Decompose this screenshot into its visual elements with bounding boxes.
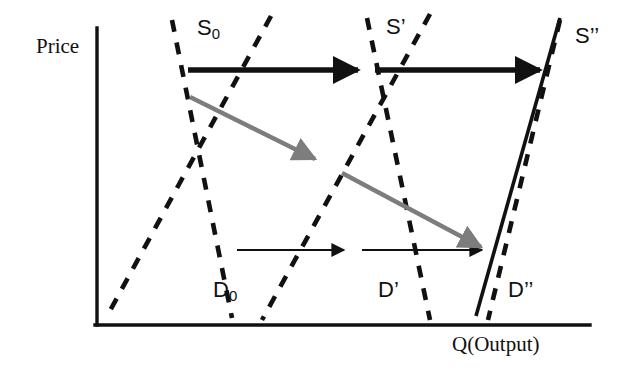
curve-label-d0-subscript: 0 <box>229 287 237 304</box>
equilibrium-path-arrow-2 <box>342 173 481 247</box>
demand-curve-d0 <box>106 16 271 318</box>
x-axis-label: Q(Output) <box>452 334 540 355</box>
supply-curve-s0 <box>172 20 232 318</box>
supply-curves <box>172 18 430 320</box>
curve-label-d0: D0 <box>213 279 237 304</box>
curve-label-d-double-prime: D’’ <box>508 279 533 301</box>
curve-label-s0: S0 <box>197 17 220 42</box>
demand-curve-d-prime <box>262 14 430 320</box>
supply-curve-s-double-prime <box>476 18 560 316</box>
equilibrium-path-arrows <box>190 97 481 247</box>
curve-label-s-double-prime: S’’ <box>575 25 599 47</box>
equilibrium-path-arrow-1 <box>190 97 315 159</box>
curve-label-s-prime: S’ <box>386 16 406 38</box>
demand-curve-d-double-prime <box>488 20 560 320</box>
diagram-canvas <box>0 0 634 372</box>
y-axis-label: Price <box>36 36 79 57</box>
curve-label-s0-subscript: 0 <box>212 25 220 42</box>
demand-curves <box>106 14 560 320</box>
supply-demand-diagram: Price Q(Output) S0 S’ S’’ D0 D’ D’’ <box>0 0 634 372</box>
curve-label-d-prime: D’ <box>378 279 399 301</box>
curve-label-s0-base: S <box>197 15 212 40</box>
supply-curve-s-prime <box>367 18 430 320</box>
curve-label-d0-base: D <box>213 277 229 302</box>
